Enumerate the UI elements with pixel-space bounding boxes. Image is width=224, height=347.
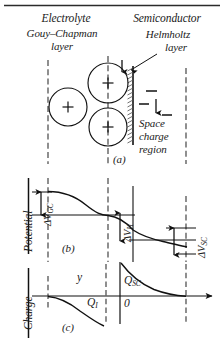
label-delta-v-gouy-chapman: ΔVGC [42,203,53,226]
delta-v-gc-base: ΔV [42,214,53,226]
label-delta-v-space-charge: ΔVSC [196,237,207,258]
helmholtz-leader-line [131,54,157,74]
label-space-charge-line1: Space [139,118,165,130]
delta-v-gc-subscript: GC [46,203,55,213]
label-charge-space: QSC [124,274,141,286]
label-gouy-chapman-layer-line1: Gouy–Chapman [2,28,122,40]
delta-v-sc-subscript: SC [200,237,209,246]
label-space-charge-line2: charge [139,131,169,143]
axis-label-charge: Charge [22,297,34,330]
charge-space-subscript: SC [132,279,141,288]
semiconductor-surface-wall [128,66,134,145]
panel-label-a: (a) [113,154,126,166]
title-semiconductor: Semiconductor [110,12,224,24]
charge-ionic-subscript: I [95,301,97,310]
title-electrolyte: Electrolyte [12,12,120,24]
label-charge-origin: 0 [124,297,130,309]
axis-label-potential: Potential [22,211,34,252]
delta-v-h-subscript: H [126,224,135,229]
label-space-charge-line3: region [139,144,167,156]
label-helmholtz-layer-line1: Helmholtz [116,29,220,41]
delta-v-sc-base: ΔV [196,246,207,258]
label-charge-ionic: QI [87,296,98,308]
label-gouy-chapman-layer-line2: layer [2,41,122,53]
figure-container: Electrolyte Semiconductor Gouy–Chapman l… [0,0,224,347]
potential-curve [48,192,187,248]
charge-space-base: Q [124,274,132,286]
panel-label-c: (c) [62,322,74,334]
charge-ionic-base: Q [87,296,95,308]
delta-v-h-base: ΔV [122,230,133,242]
label-coordinate-y: y [77,271,82,283]
label-helmholtz-layer-line2: layer [124,42,224,54]
panel-label-b: (b) [62,243,75,255]
label-delta-v-helmholtz: ΔVH [122,224,133,242]
